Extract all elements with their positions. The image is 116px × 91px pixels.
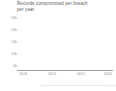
y-axis-tick-label: 15k: [11, 40, 17, 44]
chart-container: Records compromised per breach per year …: [0, 0, 116, 91]
x-axis-tick-label: 2015: [77, 72, 85, 77]
plot-area: [19, 16, 111, 70]
y-axis-tick-labels: 25k 20k 15k 10k 5k: [0, 16, 17, 70]
y-axis-tick-label: 25k: [11, 16, 17, 20]
y-axis-tick-label: 5k: [13, 64, 17, 68]
chart-title: Records compromised per breach per year: [17, 1, 93, 13]
y-axis-tick-label: 10k: [11, 52, 17, 56]
y-axis-tick-label: 20k: [11, 28, 17, 32]
x-axis-tick-label: 2016: [104, 72, 112, 77]
x-axis-tick-label: 2014: [48, 72, 56, 77]
x-axis-spine: [17, 70, 113, 71]
x-axis-tick-labels: 2013 2014 2015 2016: [19, 72, 111, 82]
x-axis-tick-label: 2013: [19, 72, 27, 77]
